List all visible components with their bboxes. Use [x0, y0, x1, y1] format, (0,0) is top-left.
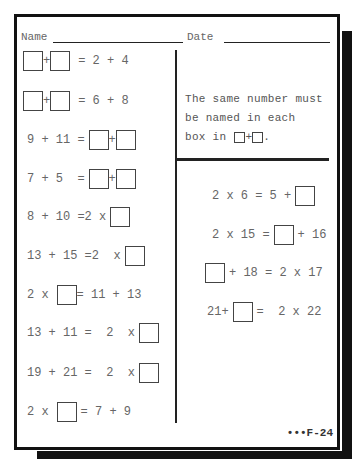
answer-box[interactable] — [57, 402, 77, 422]
instruction-line-1: The same number must — [185, 93, 323, 105]
answer-box[interactable] — [23, 51, 43, 71]
period: . — [263, 131, 270, 143]
equation-lhs: 21+ — [207, 305, 229, 319]
right-problem-3: + 18 = 2 x 17 — [205, 263, 323, 283]
answer-box[interactable] — [295, 186, 315, 206]
equation-rhs: + 16 — [298, 228, 327, 242]
plus-sign: + — [43, 94, 50, 108]
answer-box[interactable] — [116, 169, 136, 189]
equation-lhs: 13 + 15 =2 x — [27, 249, 121, 263]
equation-lhs: 8 + 10 =2 x — [27, 210, 106, 224]
problem-5: 8 + 10 =2 x — [27, 207, 130, 227]
equation-lhs: 9 + 11 = — [27, 133, 85, 147]
equation-lhs: 7 + 5 = — [27, 172, 85, 186]
equation-lhs: 19 + 21 = 2 x — [27, 366, 135, 380]
problem-3: 9 + 11 =+ — [27, 130, 136, 150]
equation-rhs: = 11 + 13 — [77, 288, 142, 302]
right-problem-2: 2 x 15 =+ 16 — [212, 225, 326, 245]
plus-sign: + — [109, 172, 116, 186]
answer-box[interactable] — [205, 263, 225, 283]
equation-rhs: = 2 x 22 — [257, 305, 322, 319]
frame-shadow-right — [342, 31, 352, 459]
date-field[interactable] — [224, 42, 330, 43]
equation-lhs: 2 x 6 = 5 + — [212, 189, 291, 203]
instruction-text: box in — [185, 131, 226, 143]
plus-sign: + — [109, 133, 116, 147]
answer-box[interactable] — [23, 91, 43, 111]
instruction-line-2: be named in each — [185, 112, 295, 124]
problem-9: 19 + 21 = 2 x — [27, 363, 159, 383]
problem-2: += 6 + 8 — [23, 91, 129, 111]
equation-lhs: 13 + 11 = 2 x — [27, 326, 135, 340]
example-box-icon — [252, 132, 263, 143]
equation-lhs: 2 x 15 = — [212, 228, 270, 242]
plus-sign: + — [245, 131, 252, 143]
name-field[interactable] — [53, 42, 183, 43]
equation-lhs: 2 x — [27, 288, 49, 302]
right-problem-1: 2 x 6 = 5 + — [212, 186, 315, 206]
answer-box[interactable] — [50, 91, 70, 111]
equation-lhs: 2 x — [27, 405, 49, 419]
answer-box[interactable] — [89, 130, 109, 150]
right-problem-4: 21+= 2 x 22 — [207, 302, 321, 322]
equation-rhs: + 18 = 2 x 17 — [229, 266, 323, 280]
problem-8: 13 + 11 = 2 x — [27, 323, 159, 343]
answer-box[interactable] — [139, 323, 159, 343]
date-label: Date — [187, 31, 213, 43]
answer-box[interactable] — [57, 285, 77, 305]
answer-box[interactable] — [125, 246, 145, 266]
instruction-line-3: box in+. — [185, 131, 270, 143]
problem-6: 13 + 15 =2 x — [27, 246, 145, 266]
page-code: •••F-24 — [287, 427, 333, 439]
section-divider — [176, 158, 329, 161]
problem-4: 7 + 5 =+ — [27, 169, 136, 189]
answer-box[interactable] — [139, 363, 159, 383]
answer-box[interactable] — [116, 130, 136, 150]
problem-7: 2 x= 11 + 13 — [27, 285, 141, 305]
answer-box[interactable] — [110, 207, 130, 227]
name-label: Name — [21, 31, 47, 43]
answer-box[interactable] — [50, 51, 70, 71]
frame-shadow-bottom — [37, 451, 352, 459]
equation-rhs: = 7 + 9 — [81, 405, 131, 419]
answer-box[interactable] — [89, 169, 109, 189]
plus-sign: + — [43, 54, 50, 68]
worksheet-frame: Name Date += 2 + 4 += 6 + 8 9 + 11 =+ 7 … — [14, 14, 340, 450]
equation-rhs: = 6 + 8 — [78, 94, 128, 108]
answer-box[interactable] — [233, 302, 253, 322]
problem-10: 2 x= 7 + 9 — [27, 402, 131, 422]
example-box-icon — [234, 132, 245, 143]
equation-rhs: = 2 + 4 — [78, 54, 128, 68]
problem-1: += 2 + 4 — [23, 51, 129, 71]
answer-box[interactable] — [274, 225, 294, 245]
column-divider — [175, 50, 177, 423]
